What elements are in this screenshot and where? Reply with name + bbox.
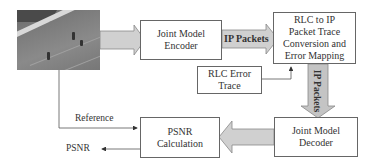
joint-model-decoder-box: Joint Model Decoder bbox=[274, 117, 358, 157]
decoder-to-psnr-arrow bbox=[219, 121, 274, 153]
psnr-output-label: PSNR bbox=[66, 143, 90, 153]
psnr-calc-label-line2: Calculation bbox=[157, 138, 203, 150]
player bbox=[72, 32, 75, 40]
rlc-label-line4: Error Mapping bbox=[283, 50, 346, 62]
ip-packets-horizontal-label: IP Packets bbox=[224, 33, 269, 44]
psnr-calculation-box: PSNR Calculation bbox=[140, 117, 220, 158]
joint-model-encoder-box: Joint Model Encoder bbox=[140, 20, 222, 60]
encoder-label-line2: Encoder bbox=[157, 40, 205, 52]
rlc-label-line3: Conversion and bbox=[283, 38, 346, 50]
rlc-error-trace-box: RLC Error Trace bbox=[197, 66, 262, 94]
ip-packets-vertical-label: IP Packets bbox=[312, 70, 322, 112]
encoder-label-line1: Joint Model bbox=[157, 28, 205, 40]
field-line bbox=[30, 35, 100, 66]
decoder-label-line2: Decoder bbox=[292, 137, 340, 149]
input-video-frame bbox=[17, 10, 100, 70]
psnr-calc-label-line1: PSNR bbox=[157, 126, 203, 138]
error-trace-connector bbox=[262, 67, 291, 79]
rlc-conversion-box: RLC to IP Packet Trace Conversion and Er… bbox=[273, 12, 356, 64]
player bbox=[47, 52, 50, 60]
player bbox=[80, 40, 83, 46]
decoder-label-line1: Joint Model bbox=[292, 125, 340, 137]
error-trace-label-line1: RLC Error bbox=[208, 68, 251, 80]
error-trace-label-line2: Trace bbox=[208, 80, 251, 92]
rlc-label-line1: RLC to IP bbox=[283, 14, 346, 26]
video-to-encoder-arrow bbox=[100, 25, 145, 55]
reference-label: Reference bbox=[75, 113, 114, 123]
rlc-label-line2: Packet Trace bbox=[283, 26, 346, 38]
